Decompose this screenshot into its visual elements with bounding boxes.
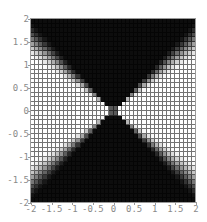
y-tick-mark (28, 180, 31, 181)
y-tick-label: 1.5 (13, 37, 29, 47)
density-plot-area (31, 19, 196, 203)
y-tick-mark (28, 19, 31, 20)
x-tick-label: -1.5 (41, 204, 63, 214)
x-tick-mark (72, 202, 73, 205)
x-tick-label: -1 (67, 204, 78, 214)
x-tick-mark (52, 202, 53, 205)
x-tick-label: -2 (26, 204, 37, 214)
x-tick-mark (134, 202, 135, 205)
x-tick-label: -0.5 (82, 204, 104, 214)
y-tick-label: 0.5 (13, 83, 29, 93)
y-tick-mark (28, 88, 31, 89)
x-tick-mark (114, 202, 115, 205)
x-tick-mark (93, 202, 94, 205)
x-tick-label: 1 (152, 204, 157, 214)
x-tick-mark (155, 202, 156, 205)
x-tick-label: 1.5 (167, 204, 183, 214)
y-tick-mark (28, 134, 31, 135)
y-tick-mark (28, 157, 31, 158)
x-tick-label: 0 (111, 204, 116, 214)
x-tick-mark (196, 202, 197, 205)
y-tick-label: -0.5 (7, 129, 29, 139)
y-tick-mark (28, 111, 31, 112)
x-tick-label: 2 (193, 204, 198, 214)
y-tick-mark (28, 65, 31, 66)
x-tick-label: 0.5 (126, 204, 142, 214)
x-tick-mark (175, 202, 176, 205)
y-tick-label: -1.5 (7, 175, 29, 185)
y-tick-mark (28, 42, 31, 43)
x-tick-mark (31, 202, 32, 205)
